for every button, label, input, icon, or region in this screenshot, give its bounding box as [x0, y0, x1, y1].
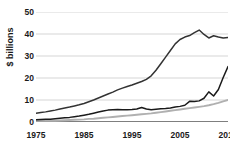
- x-axis-tick-1985: 1985: [75, 131, 94, 140]
- x-axis-tick-1995: 1995: [123, 131, 142, 140]
- x-axis-tick-2005: 2005: [171, 131, 190, 140]
- x-axis-tick-1975: 1975: [27, 131, 46, 140]
- x-axis-tick-labels: 19751985199520052015: [0, 0, 230, 147]
- x-axis-tick-2015: 2015: [219, 131, 230, 140]
- line-chart: $ billions 01020304050 19751985199520052…: [0, 0, 230, 147]
